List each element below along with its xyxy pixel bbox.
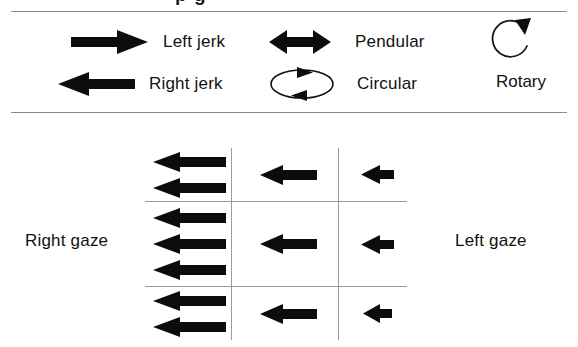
grid-cell-r2c2 bbox=[346, 287, 408, 340]
legend-label-right-jerk: Right jerk bbox=[149, 74, 223, 94]
grid-cell-r0c1 bbox=[240, 148, 336, 201]
grid-cell-r1c0 bbox=[152, 202, 230, 286]
arrow-stack-r1c2 bbox=[360, 235, 394, 254]
grid-cell-r2c0 bbox=[152, 287, 230, 340]
arrow-left-large-icon bbox=[152, 152, 226, 172]
arrow-stack-r1c0 bbox=[152, 208, 226, 280]
legend-item-pendular: Pendular bbox=[269, 20, 425, 64]
gaze-grid: Right gaze Left gaze bbox=[0, 118, 578, 347]
arrow-stack-r2c2 bbox=[362, 304, 392, 323]
arrow-left-medium-icon bbox=[259, 234, 317, 254]
label-left-gaze: Left gaze bbox=[455, 231, 527, 251]
arrow-stack-r0c1 bbox=[259, 165, 317, 185]
grid-cell-r0c2 bbox=[346, 148, 408, 201]
arrow-left-medium-icon bbox=[259, 304, 317, 324]
grid-cell-r2c1 bbox=[240, 287, 336, 340]
arrow-left-large-icon bbox=[152, 234, 226, 254]
legend-item-circular: Circular bbox=[269, 62, 417, 106]
grid-vertical-line-1 bbox=[231, 148, 232, 340]
arrow-stack-r2c0 bbox=[152, 291, 226, 337]
arrow-stack-r2c1 bbox=[259, 304, 317, 324]
arrow-left-large-icon bbox=[152, 208, 226, 228]
arrow-stack-r1c1 bbox=[259, 234, 317, 254]
cropped-title-text: p g bbox=[175, 0, 207, 6]
arrow-stack-r0c0 bbox=[152, 152, 226, 198]
arrow-stack-r0c2 bbox=[360, 165, 394, 184]
legend-label-left-jerk: Left jerk bbox=[163, 32, 225, 52]
grid-cell-r0c0 bbox=[152, 148, 230, 201]
legend-label-pendular: Pendular bbox=[355, 32, 425, 52]
grid-cell-r1c2 bbox=[346, 202, 408, 286]
arrow-left-large-icon bbox=[152, 178, 226, 198]
arrow-left-medium-icon bbox=[259, 165, 317, 185]
arrow-left-small-icon bbox=[360, 165, 394, 184]
legend-panel: Left jerk Pendular Right jerk bbox=[11, 11, 567, 113]
arrow-left-large-icon bbox=[152, 291, 226, 311]
arrow-left-small-icon bbox=[360, 235, 394, 254]
rotary-circular-arrow-icon bbox=[485, 14, 541, 68]
ellipse-circulation-icon bbox=[269, 67, 335, 101]
grid-cell-r1c1 bbox=[240, 202, 336, 286]
arrow-left-large-icon bbox=[152, 317, 226, 337]
arrow-left-small-icon bbox=[362, 304, 392, 323]
arrow-left-large-icon bbox=[152, 260, 226, 280]
double-headed-arrow-icon bbox=[269, 29, 331, 55]
legend-label-circular: Circular bbox=[357, 74, 417, 94]
arrow-left-thick-icon bbox=[57, 71, 135, 97]
legend-item-left-jerk: Left jerk bbox=[71, 20, 225, 64]
grid-vertical-line-2 bbox=[338, 148, 339, 340]
legend-label-rotary: Rotary bbox=[471, 72, 571, 92]
arrow-right-thick-icon bbox=[71, 29, 149, 55]
legend-item-rotary: Rotary bbox=[471, 14, 571, 110]
legend-item-right-jerk: Right jerk bbox=[57, 62, 223, 106]
cropped-title-fragment: p g bbox=[0, 0, 578, 9]
label-right-gaze: Right gaze bbox=[25, 231, 108, 251]
